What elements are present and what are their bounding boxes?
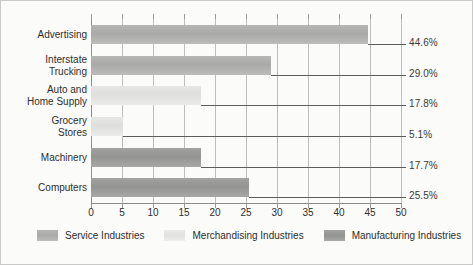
legend-label: Merchandising Industries bbox=[192, 230, 303, 241]
value-label: 25.5% bbox=[409, 190, 438, 201]
legend-swatch-icon bbox=[324, 230, 345, 241]
legend-entry[interactable]: Manufacturing Industries bbox=[324, 230, 462, 241]
value-label: 5.1% bbox=[409, 129, 432, 140]
bar-chart-card: AdvertisingInterstate TruckingAuto and H… bbox=[0, 0, 473, 265]
leader-line bbox=[271, 75, 406, 76]
value-label: 29.0% bbox=[409, 68, 438, 79]
chart-legend: Service IndustriesMerchandising Industri… bbox=[1, 228, 472, 242]
leader-line bbox=[201, 167, 406, 168]
legend-swatch-icon bbox=[37, 230, 58, 241]
value-label: 17.8% bbox=[409, 98, 438, 109]
leader-line bbox=[201, 105, 406, 106]
legend-label: Service Industries bbox=[65, 230, 144, 241]
legend-entry[interactable]: Merchandising Industries bbox=[164, 230, 303, 241]
value-label: 17.7% bbox=[409, 160, 438, 171]
legend-swatch-icon bbox=[164, 230, 185, 241]
value-label-overlay: 44.6%29.0%17.8%5.1%17.7%25.5% bbox=[1, 1, 473, 265]
legend-entry[interactable]: Service Industries bbox=[37, 230, 144, 241]
leader-line bbox=[123, 136, 406, 137]
leader-line bbox=[368, 44, 406, 45]
legend-label: Manufacturing Industries bbox=[352, 230, 462, 241]
value-label: 44.6% bbox=[409, 37, 438, 48]
leader-line bbox=[249, 197, 406, 198]
